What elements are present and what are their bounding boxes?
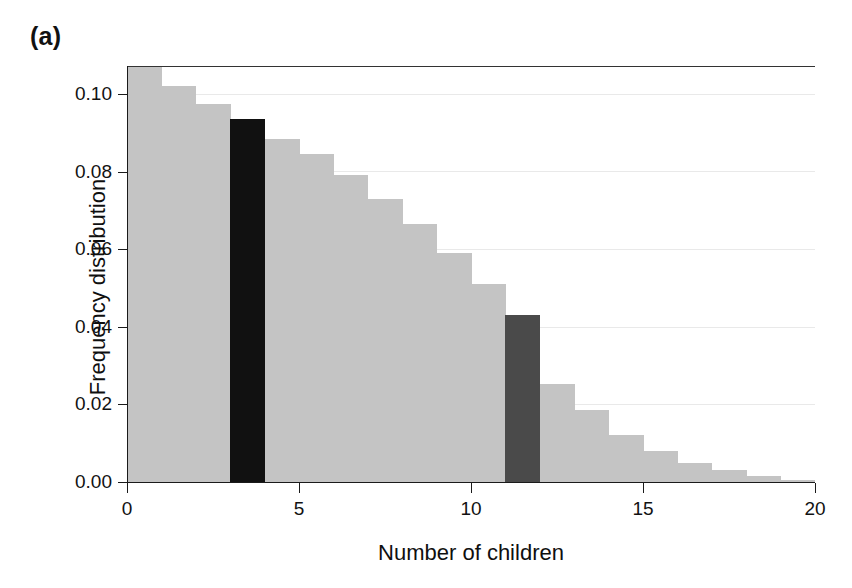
- histogram-bar: [265, 139, 300, 482]
- histogram-bar: [471, 284, 506, 482]
- x-axis-tick: [299, 483, 300, 493]
- histogram-bar: [127, 66, 162, 482]
- histogram-bar: [299, 154, 334, 482]
- x-axis-tick: [643, 483, 644, 493]
- y-axis-tick: [118, 249, 127, 250]
- y-axis-tick: [118, 172, 127, 173]
- x-axis-tick-label: 20: [785, 498, 845, 520]
- histogram-bar: [540, 384, 575, 482]
- histogram-bar: [368, 199, 403, 482]
- x-axis-title: Number of children: [127, 540, 815, 566]
- y-axis-title: Frequency distribution: [85, 77, 111, 497]
- x-axis-tick-label: 10: [441, 498, 501, 520]
- plot-box-top-border: [127, 66, 815, 67]
- x-axis-tick: [471, 483, 472, 493]
- histogram-bar: [574, 410, 609, 482]
- x-axis-tick-label: 0: [97, 498, 157, 520]
- x-axis-tick: [815, 483, 816, 493]
- histogram-bar: [333, 175, 368, 482]
- x-axis-tick: [127, 483, 128, 493]
- y-axis-line: [127, 66, 128, 483]
- x-axis-tick-label: 15: [613, 498, 673, 520]
- histogram-bar: [437, 253, 472, 482]
- histogram-bar: [712, 470, 747, 482]
- histogram-bar: [677, 463, 712, 482]
- histogram-bar: [609, 435, 644, 482]
- y-axis-tick: [118, 327, 127, 328]
- x-axis-line: [118, 482, 815, 483]
- panel-label: (a): [30, 22, 61, 51]
- y-axis-tick: [118, 404, 127, 405]
- plot-area: [127, 66, 815, 482]
- histogram-bar: [230, 119, 265, 482]
- histogram-bar: [643, 451, 678, 482]
- histogram-bar: [161, 86, 196, 482]
- y-axis-tick: [118, 482, 127, 483]
- histogram-bar: [196, 104, 231, 482]
- histogram-bar: [402, 224, 437, 482]
- histogram-bar: [505, 315, 540, 482]
- y-axis-tick: [118, 94, 127, 95]
- x-axis-tick-label: 5: [269, 498, 329, 520]
- figure-panel-a: (a) 0.000.020.040.060.080.10 05101520 Nu…: [0, 0, 852, 588]
